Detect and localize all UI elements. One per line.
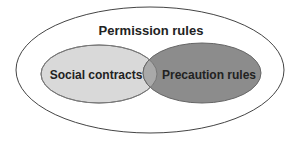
permission-rules-label: Permission rules	[99, 23, 204, 38]
precaution-rules-label: Precaution rules	[162, 68, 256, 82]
social-contracts-label: Social contracts	[50, 68, 143, 82]
venn-diagram: Permission rules Social contracts Precau…	[0, 0, 301, 141]
